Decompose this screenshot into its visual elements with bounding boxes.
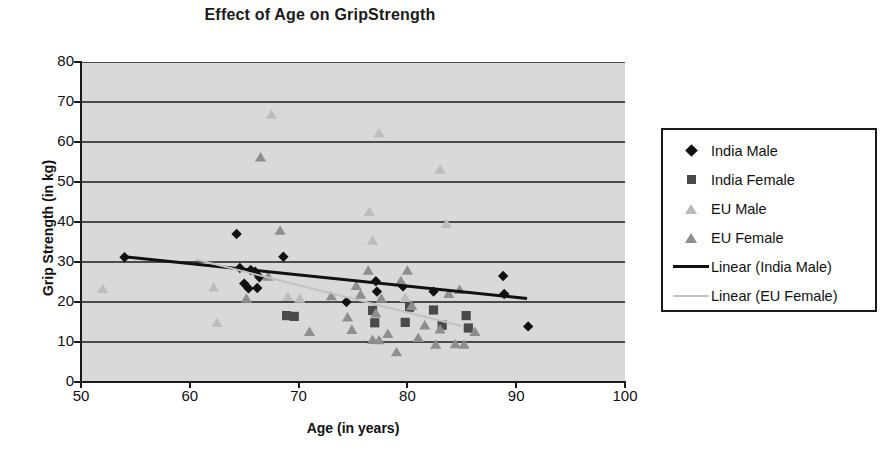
legend-item[interactable]: Linear (India Male): [663, 252, 875, 281]
data-point-square: [462, 311, 471, 320]
square-marker-icon: [687, 175, 696, 184]
data-point-triangle: [402, 265, 413, 274]
legend-key: [671, 146, 711, 155]
y-tick-mark: [74, 301, 81, 303]
line-marker-icon: [673, 295, 709, 297]
data-point-triangle: [419, 320, 430, 329]
triangle-marker-icon: [685, 204, 697, 214]
data-point-triangle: [364, 207, 375, 216]
data-point-triangle: [450, 339, 461, 348]
legend-label: EU Male: [711, 201, 767, 217]
legend-label: EU Female: [711, 230, 784, 246]
x-axis-line: [80, 381, 626, 383]
data-point-triangle: [363, 265, 374, 274]
data-point-diamond: [498, 271, 508, 281]
data-point-triangle: [211, 318, 222, 327]
legend-item[interactable]: EU Female: [663, 223, 875, 252]
diamond-marker-icon: [685, 144, 698, 157]
data-point-triangle: [441, 219, 452, 228]
y-tick-mark: [74, 61, 81, 63]
y-axis-title-host: Grip Strength (in kg): [10, 20, 40, 380]
legend-key: [671, 175, 711, 184]
data-point-triangle: [304, 327, 315, 336]
legend-item[interactable]: India Male: [663, 136, 875, 165]
trendline: [195, 259, 462, 326]
y-tick-mark: [74, 261, 81, 263]
data-point-square: [464, 323, 473, 332]
legend-key: [671, 204, 711, 214]
legend-item[interactable]: India Female: [663, 165, 875, 194]
x-axis-title: Age (in years): [81, 420, 625, 436]
data-point-triangle: [458, 339, 469, 348]
y-tick-mark: [74, 181, 81, 183]
data-point-triangle: [342, 312, 353, 321]
data-point-diamond: [523, 321, 533, 331]
data-point-square: [401, 318, 410, 327]
legend-key: [671, 233, 711, 243]
x-tick-label: 50: [56, 387, 106, 404]
x-tick-mark: [624, 381, 626, 388]
scatter-plot-canvas: [81, 62, 625, 382]
legend-item[interactable]: Linear (EU Female): [663, 281, 875, 310]
plot-area: [81, 62, 625, 382]
legend-key: [671, 265, 711, 268]
triangle-marker-icon: [685, 233, 697, 243]
data-point-triangle: [430, 339, 441, 348]
data-point-triangle: [382, 329, 393, 338]
data-point-triangle: [355, 289, 366, 298]
data-point-triangle: [434, 165, 445, 174]
x-tick-mark: [298, 381, 300, 388]
legend-label: India Female: [711, 172, 795, 188]
legend-label: Linear (EU Female): [711, 288, 838, 304]
y-tick-mark: [74, 101, 81, 103]
x-tick-mark: [515, 381, 517, 388]
x-tick-label: 90: [491, 387, 541, 404]
y-tick-mark: [74, 341, 81, 343]
data-point-square: [290, 312, 299, 321]
y-tick-mark: [74, 141, 81, 143]
data-point-triangle: [266, 109, 277, 118]
data-point-triangle: [400, 293, 411, 302]
data-point-diamond: [278, 252, 288, 262]
legend-label: India Male: [711, 143, 778, 159]
legend-key: [671, 295, 711, 297]
y-tick-mark: [74, 221, 81, 223]
data-point-triangle: [208, 282, 219, 291]
x-tick-mark: [406, 381, 408, 388]
legend-label: Linear (India Male): [711, 259, 832, 275]
legend-item[interactable]: EU Male: [663, 194, 875, 223]
y-tick-label: 80: [40, 52, 74, 69]
page-title: Effect of Age on GripStrength: [0, 6, 640, 24]
data-point-square: [429, 305, 438, 314]
data-point-triangle: [374, 128, 385, 137]
data-point-triangle: [391, 347, 402, 356]
x-tick-label: 80: [382, 387, 432, 404]
x-tick-label: 100: [600, 387, 650, 404]
data-point-triangle: [255, 152, 266, 161]
data-point-diamond: [231, 229, 241, 239]
data-point-triangle: [275, 225, 286, 234]
data-point-triangle: [413, 333, 424, 342]
data-point-triangle: [294, 293, 305, 302]
data-point-triangle: [282, 292, 293, 301]
x-tick-mark: [80, 381, 82, 388]
data-point-triangle: [346, 325, 357, 334]
data-point-triangle: [97, 284, 108, 293]
x-tick-label: 70: [274, 387, 324, 404]
data-point-triangle: [367, 235, 378, 244]
legend: India MaleIndia FemaleEU MaleEU FemaleLi…: [661, 128, 877, 312]
data-point-diamond: [252, 283, 262, 293]
x-tick-mark: [189, 381, 191, 388]
x-tick-label: 60: [165, 387, 215, 404]
y-axis-title: Grip Strength (in kg): [40, 98, 56, 358]
data-point-square: [370, 318, 379, 327]
line-marker-icon: [673, 265, 709, 268]
data-point-triangle: [241, 293, 252, 302]
chart-page: Effect of Age on GripStrength 8070605040…: [0, 0, 890, 475]
